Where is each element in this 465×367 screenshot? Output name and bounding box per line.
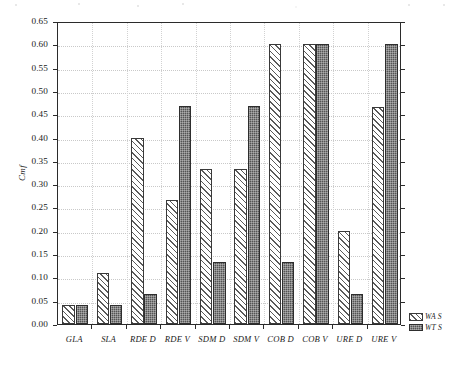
y-tick-mark-right [401, 255, 405, 256]
bar-wa-s-ure-v [372, 107, 384, 324]
bar-wt-s-ure-d [351, 294, 363, 324]
x-tick-label: SLA [101, 335, 116, 344]
x-tick-label: URE V [371, 335, 396, 344]
scan-noise-artifact [0, 0, 465, 14]
bar-series-container [58, 23, 400, 324]
x-tick-label: COB D [267, 335, 294, 344]
x-tick-mark [229, 325, 230, 329]
bar-wa-s-sla [97, 273, 109, 324]
bar-wa-s-cob-v [303, 44, 315, 324]
x-tick-label: RDE V [165, 335, 190, 344]
plot-area [57, 22, 401, 325]
y-tick-mark-right [401, 185, 405, 186]
chart-legend: WA S WT S [409, 312, 463, 333]
x-tick-mark [91, 325, 92, 329]
y-tick-mark-right [401, 302, 405, 303]
y-tick-mark-right [401, 208, 405, 209]
y-tick-mark-right [401, 325, 405, 326]
bar-wa-s-ure-d [338, 231, 350, 324]
bar-wt-s-sla [110, 305, 122, 324]
y-tick-mark-right [401, 69, 405, 70]
bar-wa-s-rde-d [131, 138, 143, 324]
legend-swatch-stipple-icon [409, 324, 423, 332]
legend-label-wt-s: WT S [425, 323, 442, 332]
x-tick-mark [160, 325, 161, 329]
x-axis-ticks: GLASLARDE DRDE VSDM DSDM VCOB DCOB VURE … [57, 325, 401, 351]
x-tick-label: RDE D [130, 335, 156, 344]
x-tick-mark [332, 325, 333, 329]
legend-item-wt-s: WT S [409, 323, 463, 333]
x-tick-mark [263, 325, 264, 329]
bar-wt-s-cob-d [282, 262, 294, 324]
bar-wt-s-sdm-d [213, 262, 225, 324]
bar-wt-s-gla [76, 305, 88, 324]
legend-swatch-hatch-icon [409, 313, 423, 321]
y-tick-mark-right [401, 22, 405, 23]
y-tick-mark-right [401, 139, 405, 140]
y-tick-mark-right [401, 115, 405, 116]
x-tick-label: SDM D [198, 335, 225, 344]
x-tick-label: SDM V [233, 335, 259, 344]
bar-wt-s-rde-v [179, 106, 191, 324]
bar-wt-s-sdm-v [248, 106, 260, 324]
y-tick-mark-right [401, 45, 405, 46]
x-tick-label: COB V [302, 335, 328, 344]
legend-label-wa-s: WA S [425, 312, 442, 321]
x-tick-mark [195, 325, 196, 329]
x-tick-mark [298, 325, 299, 329]
x-tick-mark [367, 325, 368, 329]
bar-wa-s-sdm-d [200, 169, 212, 324]
bar-wa-s-rde-v [166, 200, 178, 324]
legend-item-wa-s: WA S [409, 312, 463, 322]
y-tick-mark-right [401, 232, 405, 233]
x-tick-mark [126, 325, 127, 329]
bar-chart-figure: Cmf 0.000.050.100.150.200.250.300.350.40… [0, 0, 465, 367]
bar-wt-s-ure-v [385, 44, 397, 324]
bar-wa-s-cob-d [269, 44, 281, 324]
bar-wa-s-gla [62, 305, 74, 324]
x-tick-label: GLA [66, 335, 83, 344]
bar-wa-s-sdm-v [234, 169, 246, 324]
bar-wt-s-cob-v [316, 44, 328, 324]
bar-wt-s-rde-d [144, 294, 156, 324]
y-tick-mark-right [401, 92, 405, 93]
y-tick-mark-right [401, 278, 405, 279]
y-tick-mark-right [401, 162, 405, 163]
x-tick-label: URE D [336, 335, 362, 344]
